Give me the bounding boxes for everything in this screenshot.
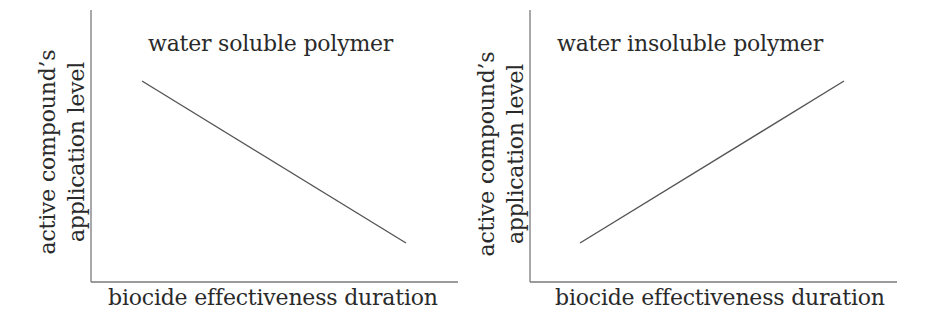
y-axis-label-line2: application level bbox=[62, 42, 91, 262]
chart-title: water soluble polymer bbox=[148, 31, 393, 56]
x-axis-label: biocide effectiveness duration bbox=[108, 285, 438, 310]
trend-line-increasing bbox=[580, 81, 844, 243]
x-axis-label: biocide effectiveness duration bbox=[555, 285, 885, 310]
chart-water-insoluble: water insoluble polymer biocide effectiv… bbox=[463, 0, 926, 328]
y-axis-label: active compound’s application level bbox=[472, 42, 530, 266]
y-axis-label-line2: application level bbox=[501, 42, 530, 266]
y-axis-label-line1: active compound’s bbox=[472, 42, 501, 266]
chart-title: water insoluble polymer bbox=[557, 31, 823, 56]
y-axis-label-line1: active compound’s bbox=[33, 42, 62, 262]
chart-water-soluble: water soluble polymer biocide effectiven… bbox=[0, 0, 463, 328]
y-axis-label: active compound’s application level bbox=[33, 42, 91, 262]
trend-line-decreasing bbox=[142, 81, 406, 243]
